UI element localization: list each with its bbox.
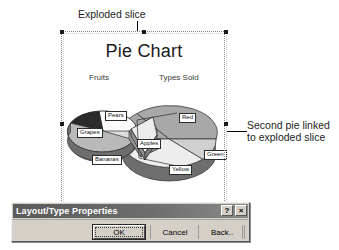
annotation-exploded-slice: Exploded slice xyxy=(78,8,146,20)
data-label-apples[interactable]: Apples xyxy=(137,139,161,149)
chart-title: Pie Chart xyxy=(61,41,227,62)
chart-subtitle-left: Fruits xyxy=(89,73,109,82)
help-icon[interactable]: ? xyxy=(221,205,233,216)
data-label-grapes[interactable]: Grapes xyxy=(77,128,103,138)
resize-handle-middle-left[interactable] xyxy=(60,122,64,126)
back-button[interactable]: Back.. xyxy=(201,225,243,239)
layout-type-properties-dialog[interactable]: Layout/Type Properties ? × OK Cancel Bac… xyxy=(11,202,250,242)
data-label-red[interactable]: Red xyxy=(179,113,196,123)
resize-handle-top-right[interactable] xyxy=(224,30,228,34)
resize-handle-top-middle[interactable] xyxy=(142,30,146,34)
data-label-bananas[interactable]: Bananas xyxy=(92,155,122,165)
annotation-second-pie-line2: to exploded slice xyxy=(247,131,325,143)
button-divider-2 xyxy=(198,225,199,239)
button-divider-1 xyxy=(150,225,151,239)
close-icon[interactable]: × xyxy=(235,205,247,216)
focus-ring xyxy=(95,227,143,237)
cancel-button[interactable]: Cancel xyxy=(153,225,197,239)
resize-handle-top-left[interactable] xyxy=(60,30,64,34)
dialog-titlebar[interactable]: Layout/Type Properties ? × xyxy=(13,204,248,218)
annotation-second-pie-line1: Second pie linked xyxy=(247,119,330,131)
data-label-yellow[interactable]: Yellow xyxy=(169,165,192,175)
dialog-title: Layout/Type Properties xyxy=(16,206,118,216)
dialog-separator xyxy=(13,219,248,220)
resize-handle-middle-right[interactable] xyxy=(224,122,228,126)
leader-line-second-pie xyxy=(225,131,247,132)
button-divider-3 xyxy=(244,225,245,239)
data-label-pears[interactable]: Pears xyxy=(105,111,127,121)
ok-button[interactable]: OK xyxy=(93,225,145,239)
annotation-second-pie: Second pie linkedto exploded slice xyxy=(247,119,330,143)
chart-subtitle-right: Types Sold xyxy=(159,73,199,82)
screenshot-root: Exploded slice Second pie linkedto explo… xyxy=(0,0,339,250)
chart-object-selected[interactable]: Pie Chart Fruits Types Sold Pears Grapes… xyxy=(61,31,227,217)
dialog-body: OK Cancel Back.. xyxy=(13,218,248,240)
